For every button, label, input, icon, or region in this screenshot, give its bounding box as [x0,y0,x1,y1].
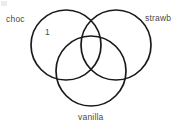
venn-count-choc-only: 1 [45,27,50,37]
venn-label-vanilla: vanilla [78,112,104,122]
venn-circle-strawb [81,10,151,80]
venn-diagram-figure: choc strawb vanilla 1 [0,0,182,127]
venn-circle-vanilla [56,36,126,106]
venn-label-strawb: strawb [145,13,171,23]
venn-label-choc: choc [6,14,25,24]
